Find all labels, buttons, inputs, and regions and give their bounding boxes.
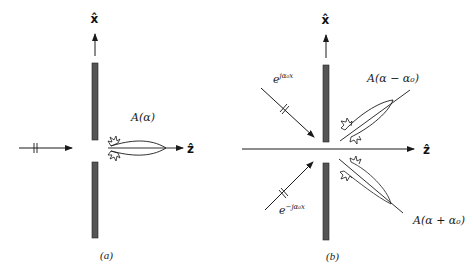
panel-b: x̂ ẑ ejα₀x e−jα₀x A(α − α₀): [242, 13, 465, 263]
screen-upper-a: [92, 63, 98, 140]
diffraction-diagram: x̂ ẑ A(α) (a) x̂ ẑ ejα: [0, 0, 473, 278]
x-axis-label-a: x̂: [91, 12, 99, 26]
radiation-lobe-lower-b: [339, 156, 403, 213]
z-axis-label-a: ẑ: [187, 142, 194, 156]
upper-wave-label: ejα₀x: [273, 72, 293, 86]
z-axis-label-b: ẑ: [423, 143, 430, 157]
screen-lower-a: [92, 162, 98, 238]
lower-wave-label: e−jα₀x: [279, 203, 305, 217]
wavefront-tick-icon: [281, 188, 288, 196]
screen-lower-b: [323, 163, 329, 240]
radiation-lobe-a: [108, 136, 166, 161]
lower-lobe-label: A(α + α₀): [412, 214, 465, 227]
screen-upper-b: [323, 65, 329, 142]
wavefront-tick-icon: [279, 190, 286, 198]
upper-lobe-label: A(α − α₀): [366, 72, 419, 85]
lobe-label-a: A(α): [130, 111, 155, 124]
panel-a: x̂ ẑ A(α) (a): [19, 12, 194, 262]
x-axis-label-b: x̂: [322, 13, 330, 27]
radiation-lobe-upper-b: [340, 90, 410, 144]
caption-b: (b): [326, 250, 339, 263]
caption-a: (a): [100, 249, 113, 262]
incident-wave-upper-b: [261, 88, 314, 137]
